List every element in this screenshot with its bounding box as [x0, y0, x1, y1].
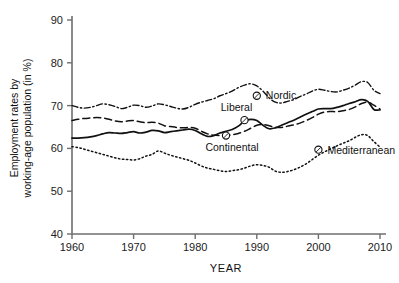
- series-label-continental: Continental: [205, 141, 258, 153]
- x-axis-title: YEAR: [210, 262, 242, 274]
- y-tick-label: 50: [51, 185, 63, 197]
- y-tick-label: 40: [51, 228, 63, 240]
- series-label-mediterranean: Mediterranean: [327, 144, 395, 156]
- series-label-nordic: Nordic: [266, 89, 296, 101]
- employment-rates-line-chart: 405060708090196019701980199020002010 Nor…: [0, 0, 399, 283]
- series-label-liberal: Liberal: [221, 101, 253, 113]
- y-tick-label: 70: [51, 100, 63, 112]
- y-tick-label: 90: [51, 14, 63, 26]
- x-tick-label: 2000: [306, 241, 330, 253]
- y-axis-title-line1: Employment rates by: [8, 78, 20, 177]
- chart-figure: 405060708090196019701980199020002010 Nor…: [0, 0, 399, 283]
- series-lines: [72, 81, 380, 172]
- y-axis-title-line2: working-age population (in %): [21, 59, 33, 199]
- x-tick-label: 1980: [183, 241, 207, 253]
- x-tick-label: 2010: [368, 241, 392, 253]
- x-tick-label: 1990: [245, 241, 269, 253]
- x-tick-label: 1970: [121, 241, 145, 253]
- y-tick-label: 80: [51, 57, 63, 69]
- y-tick-label: 60: [51, 142, 63, 154]
- x-tick-label: 1960: [60, 241, 84, 253]
